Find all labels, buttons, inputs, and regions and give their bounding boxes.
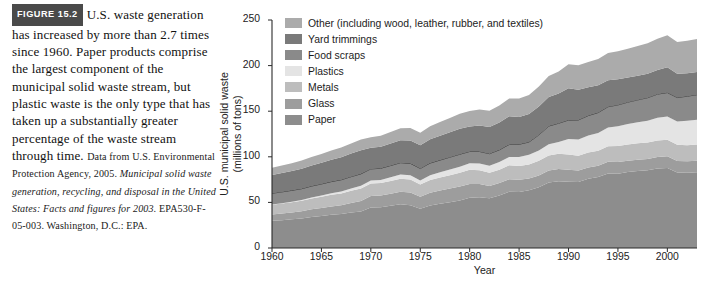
legend-item: Paper: [285, 112, 543, 128]
legend-label: Food scraps: [308, 50, 365, 61]
legend-swatch: [285, 66, 302, 76]
legend-swatch: [285, 99, 302, 109]
figure-caption: FIGURE 15.2U.S. waste generation has inc…: [12, 4, 217, 233]
chart-legend: Other (including wood, leather, rubber, …: [285, 15, 543, 128]
legend-swatch: [285, 50, 302, 60]
legend-label: Glass: [308, 98, 335, 109]
stacked-area-chart: U.S. municipal solid waste (millions of …: [206, 0, 724, 282]
legend-label: Other (including wood, leather, rubber, …: [308, 18, 543, 29]
caption-body: FIGURE 15.2U.S. waste generation has inc…: [12, 4, 217, 233]
legend-item: Food scraps: [285, 47, 543, 63]
legend-item: Yard trimmings: [285, 31, 543, 47]
legend-item: Plastics: [285, 63, 543, 79]
figure-panel: FIGURE 15.2U.S. waste generation has inc…: [0, 0, 724, 282]
legend-swatch: [285, 18, 302, 28]
legend-swatch: [285, 115, 302, 125]
figure-number-badge: FIGURE 15.2: [12, 4, 83, 26]
legend-item: Glass: [285, 95, 543, 111]
legend-item: Other (including wood, leather, rubber, …: [285, 15, 543, 31]
legend-item: Metals: [285, 79, 543, 95]
legend-swatch: [285, 82, 302, 92]
legend-label: Paper: [308, 114, 336, 125]
caption-main-text: U.S. waste generation has increased by m…: [12, 7, 210, 163]
legend-swatch: [285, 34, 302, 44]
legend-label: Yard trimmings: [308, 34, 377, 45]
legend-label: Metals: [308, 82, 339, 93]
legend-label: Plastics: [308, 66, 344, 77]
